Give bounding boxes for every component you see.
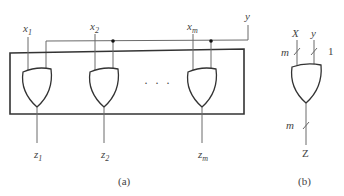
- caption-a: (a): [118, 175, 131, 188]
- zm-label: zm: [197, 148, 208, 163]
- or-gate-m-shape: [188, 68, 217, 107]
- or-gate-b-shape: [292, 64, 322, 103]
- y-label-b: y: [310, 27, 316, 39]
- junction-dot-2: [111, 39, 115, 43]
- or-gate-1-shape: [23, 68, 52, 107]
- y-bus-wire: [46, 25, 248, 58]
- x1-label: x1: [22, 22, 32, 37]
- z1-label: z1: [33, 148, 42, 163]
- or-gate-2: [90, 34, 119, 143]
- or-gate-vector: [292, 40, 322, 145]
- X-label: X: [291, 27, 300, 39]
- Z-width-label: m: [286, 119, 294, 131]
- z2-label: z2: [100, 148, 109, 163]
- X-width-label: m: [281, 46, 289, 58]
- x2-label: x2: [89, 20, 99, 35]
- junction-dot-m: [209, 39, 213, 43]
- diagram-canvas: y x1 z1 x2 z2 · · · xm zm (a): [0, 0, 344, 196]
- caption-b: (b): [298, 175, 311, 188]
- xm-label: xm: [186, 20, 198, 35]
- or-gate-2-shape: [90, 68, 119, 107]
- ellipsis: · · ·: [144, 76, 172, 90]
- y-width-label: 1: [328, 45, 334, 57]
- y-input-label: y: [244, 10, 250, 22]
- Z-label: Z: [302, 147, 309, 159]
